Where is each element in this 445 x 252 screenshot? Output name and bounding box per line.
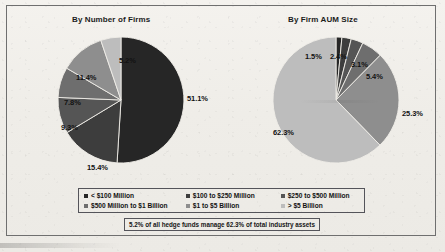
pie-value-label-left-0: 51.1%	[187, 94, 208, 103]
legend-item-4: $1 to $5 Billion	[186, 202, 281, 209]
legend-item-0: < $100 Million	[84, 192, 186, 199]
legend-item-5: > $5 Billion	[281, 202, 359, 209]
legend-row-1: < $100 Million $100 to $250 Million $250…	[84, 191, 359, 201]
legend-swatch-icon-0	[84, 194, 88, 198]
pie-value-label-left-2: 9.3%	[61, 123, 78, 132]
pie-value-label-right-2: 3.1%	[351, 60, 368, 69]
pie-chart-by-number-of-firms: 51.1%15.4%9.3%7.8%11.4%5.2%	[56, 35, 186, 165]
pie-value-label-right-5: 62.3%	[273, 128, 294, 137]
legend: < $100 Million $100 to $250 Million $250…	[78, 188, 365, 213]
chart-title-by-firm-aum-size: By Firm AUM Size	[288, 15, 358, 24]
legend-label-2: $250 to $500 Million	[288, 192, 350, 199]
legend-label-5: > $5 Billion	[288, 202, 323, 209]
legend-label-0: < $100 Million	[91, 192, 134, 199]
legend-swatch-icon-4	[186, 204, 190, 208]
pie-value-label-right-3: 5.4%	[366, 72, 383, 81]
chart-title-by-number-of-firms: By Number of Firms	[72, 15, 150, 24]
scan-artifact-secondary	[300, 100, 380, 103]
footnote-box: 5.2% of all hedge funds manage 62.3% of …	[124, 218, 320, 231]
legend-label-4: $1 to $5 Billion	[193, 202, 240, 209]
pie-value-label-left-5: 5.2%	[119, 56, 136, 65]
legend-item-1: $100 to $250 Million	[186, 192, 281, 199]
legend-row-2: $500 Million to $1 Billion $1 to $5 Bill…	[84, 201, 359, 211]
legend-label-1: $100 to $250 Million	[193, 192, 255, 199]
legend-item-3: $500 Million to $1 Billion	[84, 202, 186, 209]
legend-item-2: $250 to $500 Million	[281, 192, 359, 199]
legend-swatch-icon-1	[186, 194, 190, 198]
footnote-text: 5.2% of all hedge funds manage 62.3% of …	[129, 221, 315, 228]
legend-swatch-icon-2	[281, 194, 285, 198]
pie-value-label-left-3: 7.8%	[64, 98, 81, 107]
pie-value-label-right-4: 25.3%	[402, 109, 423, 118]
legend-label-3: $500 Million to $1 Billion	[91, 202, 168, 209]
pie-value-label-left-4: 11.4%	[76, 73, 96, 82]
pie-value-label-left-1: 15.4%	[87, 163, 108, 172]
legend-swatch-icon-3	[84, 204, 88, 208]
legend-swatch-icon-5	[281, 204, 285, 208]
pie-value-label-right-1: 2.4%	[330, 52, 347, 61]
pie-value-label-right-0: 1.5%	[305, 52, 322, 61]
scan-artifact	[0, 243, 120, 248]
